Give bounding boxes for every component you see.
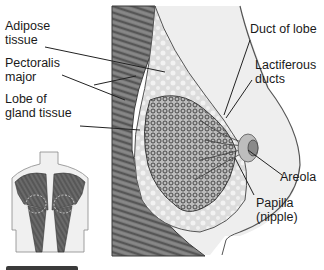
label-lactiferous-ducts: Lactiferous ducts xyxy=(255,58,316,86)
label-lobe-of-gland-tissue: Lobe of gland tissue xyxy=(5,92,72,120)
bottom-edge-bar xyxy=(6,266,78,270)
label-areola: Areola xyxy=(280,170,316,184)
label-papilla-nipple: Papilla (nipple) xyxy=(256,196,298,224)
label-pectoralis-major: Pectoralis major xyxy=(5,56,60,84)
torso-inset xyxy=(12,152,88,252)
label-duct-of-lobe: Duct of lobe xyxy=(250,22,317,36)
label-adipose-tissue: Adipose tissue xyxy=(5,19,50,47)
